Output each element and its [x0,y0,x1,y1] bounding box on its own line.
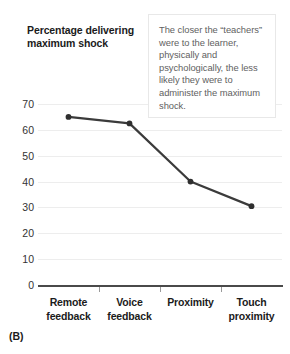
plot-area [38,104,282,285]
gridline [38,259,282,260]
annotation-callout: The closer the “teachers” were to the le… [148,14,276,118]
x-tick-mark [99,287,100,292]
y-tick-label: 0 [0,279,34,291]
x-tick-mark [221,287,222,292]
x-category-label: Touchproximity [216,296,288,323]
y-tick-label: 10 [0,253,34,265]
gridline [38,130,282,131]
gridline [38,233,282,234]
gridline [38,182,282,183]
y-tick-label: 60 [0,124,34,136]
y-axis-tick-labels: 010203040506070 [0,104,34,285]
y-tick-label: 40 [0,176,34,188]
y-tick-label: 20 [0,227,34,239]
y-axis-title: Percentage delivering maximum shock [27,24,137,50]
x-axis-tick-labels: RemotefeedbackVoicefeedbackProximityTouc… [38,296,283,336]
x-tick-mark [160,287,161,292]
annotation-text: The closer the “teachers” were to the le… [159,24,267,112]
y-tick-label: 50 [0,150,34,162]
gridline [38,156,282,157]
panel-label: (B) [9,330,24,342]
y-tick-label: 70 [0,98,34,110]
figure-panel-b: Percentage delivering maximum shock The … [0,0,290,354]
gridline [38,207,282,208]
y-tick-label: 30 [0,201,34,213]
